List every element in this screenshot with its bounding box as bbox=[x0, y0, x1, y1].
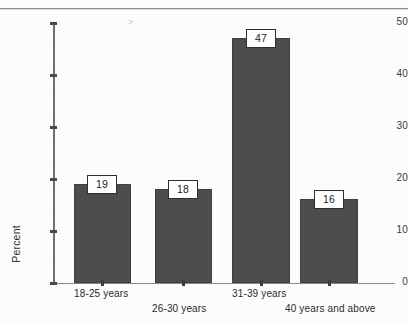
y-tick-mark-0 bbox=[50, 282, 57, 285]
scan-artifact-speck: ˃ bbox=[128, 18, 137, 26]
bar-40-years-and-above bbox=[300, 199, 358, 283]
y-tick-label-0: 0 bbox=[374, 276, 408, 287]
bar-value-label-26-30-years: 18 bbox=[168, 180, 198, 199]
bar-value-label-40-years-and-above: 16 bbox=[314, 190, 344, 209]
bar-chart-figure: ˃ 50 40 30 20 10 0 Percent 19 18 47 16 1… bbox=[0, 0, 408, 324]
x-axis-label-40-years-and-above: 40 years and above bbox=[285, 303, 376, 314]
x-axis-label-26-30-years: 26-30 years bbox=[152, 303, 206, 314]
bar-18-25-years bbox=[74, 184, 131, 283]
y-axis-title: Percent bbox=[10, 209, 22, 279]
y-tick-label-40: 40 bbox=[374, 68, 408, 79]
x-tick-mark-26-30-years bbox=[182, 280, 185, 286]
y-tick-mark-30 bbox=[50, 126, 57, 129]
x-tick-mark-40-years-and-above bbox=[328, 280, 331, 286]
bar-value-label-18-25-years: 19 bbox=[87, 175, 117, 194]
bar-26-30-years bbox=[155, 189, 212, 283]
bar-value-label-31-39-years: 47 bbox=[246, 29, 276, 48]
y-tick-label-10: 10 bbox=[374, 224, 408, 235]
x-tick-mark-18-25-years bbox=[101, 280, 104, 286]
x-tick-mark-31-39-years bbox=[260, 280, 263, 286]
y-tick-mark-40 bbox=[50, 74, 57, 77]
y-tick-label-30: 30 bbox=[374, 120, 408, 131]
y-tick-label-50: 50 bbox=[374, 16, 408, 27]
y-axis-line bbox=[53, 22, 55, 284]
x-axis-line bbox=[53, 283, 395, 284]
bar-31-39-years bbox=[232, 38, 290, 283]
top-frame-rule bbox=[0, 8, 408, 9]
x-axis-label-31-39-years: 31-39 years bbox=[232, 288, 286, 299]
y-tick-mark-20 bbox=[50, 178, 57, 181]
y-tick-mark-50 bbox=[50, 22, 57, 25]
x-axis-label-18-25-years: 18-25 years bbox=[74, 288, 128, 299]
y-tick-mark-10 bbox=[50, 230, 57, 233]
y-tick-label-20: 20 bbox=[374, 172, 408, 183]
